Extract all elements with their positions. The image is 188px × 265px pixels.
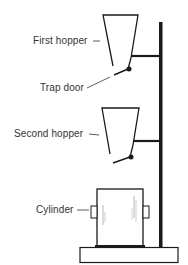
- label-cylinder: Cylinder: [36, 204, 73, 216]
- leader-trap-door: [87, 77, 110, 88]
- trap-door-1: [114, 67, 132, 76]
- base-plate: [80, 248, 178, 263]
- leader-second-hopper: [89, 134, 99, 135]
- second-hopper: [102, 108, 139, 157]
- cylinder-lug-right: [143, 206, 149, 218]
- cylinder-lug-left: [91, 206, 97, 218]
- pivot-icon: [127, 67, 132, 72]
- first-hopper: [103, 15, 138, 69]
- label-second-hopper: Second hopper: [14, 128, 83, 140]
- cylinder: [91, 189, 149, 246]
- trap-door-2: [113, 155, 134, 164]
- label-trap-door: Trap door: [40, 82, 84, 94]
- label-first-hopper: First hopper: [33, 35, 88, 47]
- pivot-icon: [129, 155, 134, 160]
